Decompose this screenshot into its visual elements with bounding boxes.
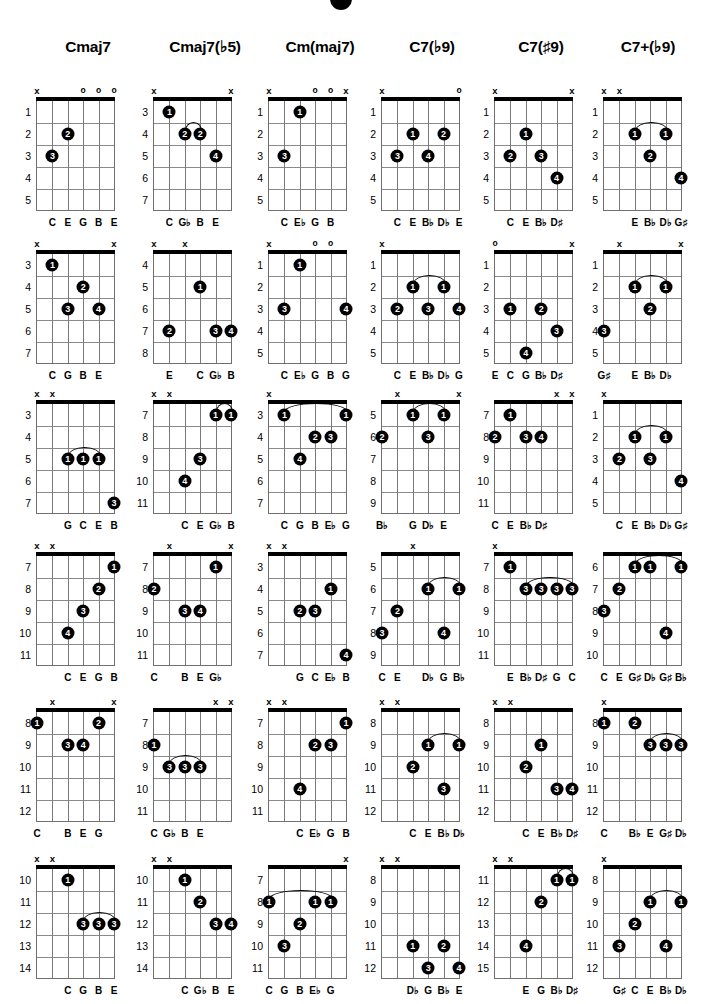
finger-dot: 1 (406, 409, 419, 422)
muted-string-icon: x (505, 853, 515, 864)
finger-dot: 3 (278, 303, 291, 316)
muted-string-icon: x (567, 388, 577, 399)
fret-number: 5 (127, 282, 148, 292)
fret-line (495, 426, 572, 427)
string-line (185, 254, 186, 363)
note-name: B (342, 672, 349, 684)
fret-number: 1 (577, 260, 598, 270)
fretboard (381, 712, 460, 822)
fret-number: 3 (10, 260, 31, 270)
finger-dot: 1 (422, 739, 435, 752)
fret-line (269, 957, 346, 958)
fret-number: 9 (127, 606, 148, 616)
note-name: E (197, 672, 204, 684)
fret-line (604, 189, 681, 190)
string-line (619, 712, 620, 821)
note-name: B (227, 520, 234, 532)
fret-number: 1 (468, 107, 489, 117)
note-name: E (166, 370, 173, 382)
finger-dot: 4 (209, 150, 222, 163)
note-name: C (265, 985, 272, 997)
fret-number: 10 (242, 784, 263, 794)
note-name: C (80, 520, 87, 532)
fret-line (154, 778, 231, 779)
finger-dot: 2 (535, 896, 548, 909)
fret-number: 8 (468, 718, 489, 728)
note-name: D♭ (437, 370, 449, 382)
finger-dot: 1 (453, 739, 466, 752)
note-name: D♭ (659, 217, 671, 229)
note-name-row: CGBE♭G (268, 520, 347, 532)
fret-line (495, 600, 572, 601)
note-name: E♭ (309, 828, 321, 840)
fret-number: 4 (355, 173, 376, 183)
string-line (413, 254, 414, 363)
fret-line (37, 276, 114, 277)
fret-line (604, 298, 681, 299)
string-line (331, 556, 332, 665)
finger-dot: 3 (309, 605, 322, 618)
finger-dot: 1 (437, 281, 450, 294)
finger-dot: 2 (437, 128, 450, 141)
fret-number: 9 (10, 606, 31, 616)
finger-dot: 3 (598, 325, 611, 338)
finger-dot: 2 (535, 303, 548, 316)
finger-dot: 3 (376, 627, 389, 640)
finger-dot: 3 (163, 761, 176, 774)
string-line (83, 254, 84, 363)
string-line (635, 254, 636, 363)
fret-line (382, 644, 459, 645)
finger-dot: 2 (293, 605, 306, 618)
finger-dot: 4 (293, 453, 306, 466)
muted-string-icon: x (377, 238, 387, 249)
string-line (315, 254, 316, 363)
note-name: B (80, 370, 87, 382)
note-name: B♭ (644, 370, 656, 382)
fret-number: 4 (468, 173, 489, 183)
fret-line (604, 957, 681, 958)
fret-line (382, 622, 459, 623)
fret-number: 9 (355, 897, 376, 907)
fret-line (382, 891, 459, 892)
fret-line (382, 123, 459, 124)
fret-number: 4 (577, 326, 598, 336)
fretboard (268, 712, 347, 822)
string-line (428, 556, 429, 665)
finger-dot: 3 (178, 605, 191, 618)
finger-dot: 2 (376, 431, 389, 444)
note-name: C (281, 217, 288, 229)
note-name: D♭ (422, 520, 434, 532)
note-name: B (327, 217, 334, 229)
fret-line (382, 913, 459, 914)
finger-dot: 4 (77, 739, 90, 752)
note-name: D♯ (535, 520, 547, 532)
note-name: G (281, 985, 289, 997)
note-name: B♭ (550, 985, 562, 997)
string-line (619, 254, 620, 363)
muted-string-icon: x (149, 238, 159, 249)
muted-string-icon: x (47, 540, 57, 551)
note-name-row: CEB♭D♯ (494, 520, 573, 532)
note-name: G (327, 985, 335, 997)
string-line (99, 101, 100, 210)
string-line (526, 869, 527, 978)
fret-line (37, 492, 114, 493)
finger-dot: 3 (598, 605, 611, 618)
fret-number: 5 (468, 348, 489, 358)
fret-number: 9 (468, 454, 489, 464)
fret-line (382, 957, 459, 958)
note-name-row: CEG♭B (153, 520, 232, 532)
string-line (99, 556, 100, 665)
note-name: C (522, 828, 529, 840)
string-line (169, 404, 170, 513)
finger-dot: 1 (194, 281, 207, 294)
note-name-row: CGBE (36, 370, 115, 382)
fret-number: 14 (10, 963, 31, 973)
finger-dot: 1 (644, 561, 657, 574)
fret-number: 10 (468, 476, 489, 486)
muted-string-icon: x (490, 540, 500, 551)
muted-string-icon: x (264, 540, 274, 551)
note-name-row: CEB♭D♭E (381, 217, 460, 229)
fret-number: 1 (355, 260, 376, 270)
finger-dot: 3 (659, 739, 672, 752)
